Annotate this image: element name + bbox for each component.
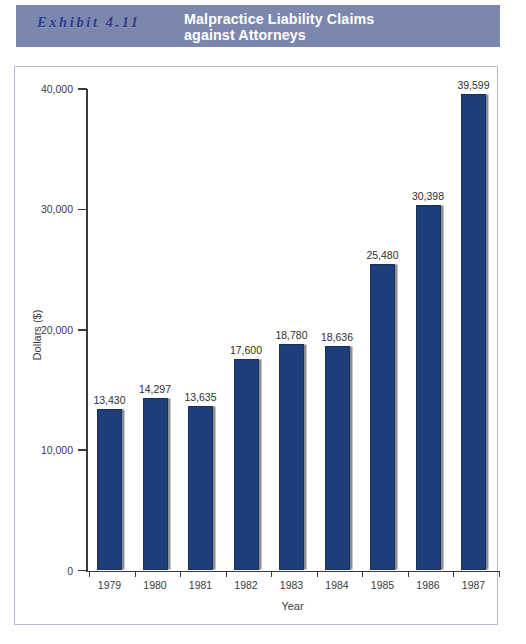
exhibit-number-label: Exhibit 4.11: [16, 5, 184, 31]
bar: [279, 344, 304, 570]
y-axis-tick-label: 10,000: [15, 444, 73, 456]
x-axis-tick: [135, 571, 136, 577]
y-axis-tick-label: 40,000: [15, 83, 73, 95]
x-axis-title: Year: [86, 600, 499, 612]
bar: [234, 359, 259, 571]
y-axis-tick: [78, 449, 87, 451]
bar-value-label: 13,635: [172, 391, 230, 403]
bar-value-label: 13,430: [81, 394, 139, 406]
bar: [461, 94, 486, 571]
bar: [143, 398, 168, 570]
y-axis-tick: [78, 329, 87, 331]
bar: [97, 409, 122, 571]
chart-frame: 010,00020,00030,00040,000 Dollars ($) 13…: [14, 66, 498, 625]
y-axis-title: Dollars ($): [31, 295, 43, 375]
bar-value-label: 30,398: [399, 190, 457, 202]
bar-chart-plot-area: 010,00020,00030,00040,000 Dollars ($) 13…: [15, 67, 497, 624]
bar: [370, 264, 395, 571]
exhibit-title: Malpractice Liability Claims against Att…: [184, 5, 374, 43]
x-axis-tick: [408, 571, 409, 577]
y-axis-tick-label: 0: [15, 565, 73, 577]
bar-value-label: 18,636: [308, 331, 366, 343]
x-axis-tick: [89, 571, 90, 577]
bar: [325, 346, 350, 570]
x-axis-tick: [226, 571, 227, 577]
x-axis-tick: [317, 571, 318, 577]
bar: [416, 205, 441, 571]
x-axis-tick: [180, 571, 181, 577]
x-axis-tick: [271, 571, 272, 577]
bar: [188, 406, 213, 570]
bar-value-label: 17,600: [217, 344, 275, 356]
x-axis-tick: [453, 571, 454, 577]
y-axis-tick: [78, 570, 87, 572]
x-axis-line: [86, 571, 499, 573]
x-axis-tick: [362, 571, 363, 577]
y-axis-tick: [78, 209, 87, 211]
x-axis-tick-label: 1987: [445, 579, 503, 591]
x-axis-tick: [499, 571, 500, 577]
y-axis-tick-label: 30,000: [15, 203, 73, 215]
y-axis-tick: [78, 88, 87, 90]
y-axis-tick-label: 20,000: [15, 324, 73, 336]
bar-value-label: 25,480: [354, 249, 412, 261]
bar-value-label: 39,599: [445, 79, 503, 91]
exhibit-header-band: Exhibit 4.11 Malpractice Liability Claim…: [16, 5, 500, 47]
